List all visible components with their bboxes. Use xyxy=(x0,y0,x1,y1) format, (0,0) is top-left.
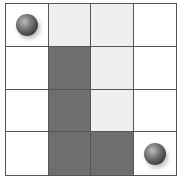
grid-cell-3-0[interactable] xyxy=(6,132,49,175)
grid-cell-2-0[interactable] xyxy=(6,90,49,133)
grid-cell-0-1[interactable] xyxy=(49,4,92,47)
game-board xyxy=(5,3,177,176)
grid-cell-3-1[interactable] xyxy=(49,132,92,175)
ball-icon[interactable] xyxy=(16,14,38,36)
grid-cell-1-2[interactable] xyxy=(91,47,134,90)
ball-icon[interactable] xyxy=(144,143,166,165)
grid-cell-0-0[interactable] xyxy=(6,4,49,47)
grid-cell-2-3[interactable] xyxy=(134,90,177,133)
grid-cell-1-0[interactable] xyxy=(6,47,49,90)
grid-cell-1-1[interactable] xyxy=(49,47,92,90)
grid-cell-2-2[interactable] xyxy=(91,90,134,133)
grid-cell-0-3[interactable] xyxy=(134,4,177,47)
grid-cell-3-2[interactable] xyxy=(91,132,134,175)
grid-cell-1-3[interactable] xyxy=(134,47,177,90)
grid-cell-2-1[interactable] xyxy=(49,90,92,133)
grid-cell-3-3[interactable] xyxy=(134,132,177,175)
grid-cell-0-2[interactable] xyxy=(91,4,134,47)
